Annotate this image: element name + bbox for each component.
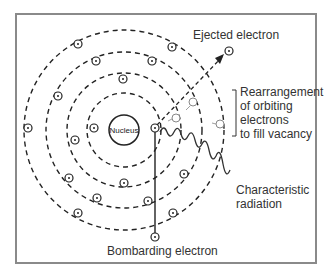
faded-electrons bbox=[172, 98, 224, 128]
rearrangement-line-3: electrons bbox=[240, 113, 289, 127]
rearrangement-line-2: of orbiting bbox=[240, 99, 293, 113]
characteristic-line-1: Characteristic bbox=[236, 183, 309, 197]
ejected-path bbox=[157, 57, 222, 125]
bombarding-label: Bombarding electron bbox=[107, 244, 218, 258]
characteristic-line-2: radiation bbox=[236, 197, 282, 211]
radiation-wave bbox=[160, 128, 230, 174]
ejected-label: Ejected electron bbox=[193, 28, 279, 42]
rearrangement-line-4: to fill vacancy bbox=[240, 127, 312, 141]
rearrangement-line-1: Rearrangement bbox=[240, 85, 323, 99]
bracket bbox=[232, 90, 236, 136]
nucleus-label: Nucleus bbox=[110, 126, 139, 135]
